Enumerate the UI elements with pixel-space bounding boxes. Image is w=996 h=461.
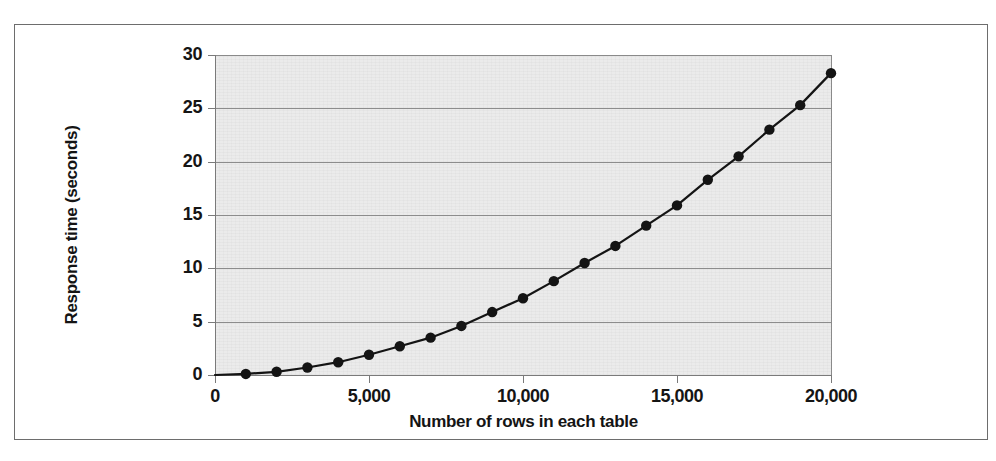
- y-tick-mark-5: [208, 322, 215, 323]
- x-tick-mark-5000: [369, 376, 370, 383]
- y-axis-line: [215, 55, 216, 376]
- y-tick-label-10: 10: [168, 257, 202, 278]
- x-tick-label-15000: 15,000: [651, 386, 703, 406]
- gridline-y-20: [215, 162, 832, 163]
- x-tick-label-0: 0: [210, 386, 220, 406]
- gridline-y-15: [215, 215, 832, 216]
- y-tick-mark-15: [208, 215, 215, 216]
- y-tick-mark-30: [208, 55, 215, 56]
- y-tick-mark-0: [208, 375, 215, 376]
- y-tick-mark-10: [208, 268, 215, 269]
- y-tick-label-15: 15: [168, 204, 202, 225]
- plot-border-right: [831, 55, 832, 376]
- x-tick-mark-20000: [831, 376, 832, 383]
- x-tick-mark-0: [215, 376, 216, 383]
- y-tick-label-0: 0: [168, 364, 202, 385]
- y-tick-label-25: 25: [168, 97, 202, 118]
- gridline-y-5: [215, 322, 832, 323]
- plot-border-top: [215, 55, 832, 56]
- y-tick-label-30: 30: [168, 44, 202, 65]
- x-tick-mark-10000: [523, 376, 524, 383]
- x-tick-mark-15000: [677, 376, 678, 383]
- y-tick-label-5: 5: [168, 311, 202, 332]
- y-tick-mark-25: [208, 108, 215, 109]
- x-tick-label-5000: 5,000: [348, 386, 391, 406]
- gridline-y-25: [215, 108, 832, 109]
- y-axis-label: Response time (seconds): [62, 85, 82, 365]
- y-tick-label-20: 20: [168, 151, 202, 172]
- figure-container: ESPONSE TIME OIN IS SO IMPORTANT: [0, 0, 996, 461]
- y-tick-mark-20: [208, 162, 215, 163]
- x-tick-label-20000: 20,000: [805, 386, 857, 406]
- x-tick-label-10000: 10,000: [497, 386, 549, 406]
- x-axis-label: Number of rows in each table: [215, 412, 832, 432]
- figure-frame: ESPONSE TIME OIN IS SO IMPORTANT: [14, 24, 988, 440]
- gridline-y-10: [215, 268, 832, 269]
